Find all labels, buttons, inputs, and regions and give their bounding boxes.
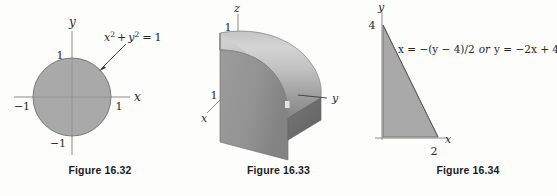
y-axis-label: y (331, 92, 339, 105)
x-tick-negative-label: −1 (14, 100, 30, 113)
eq-y-exp: 2 (134, 30, 139, 39)
line-equation-annotation: x = −(y − 4)/2ory = −2x + 4 (398, 43, 557, 55)
eq-conjunction: or (479, 43, 491, 55)
x-tick-positive-label: 1 (116, 100, 123, 113)
figure-16-34-panel: y x 4 2 x = −(y − 4)/2ory = −2x + 4 Figu… (365, 0, 557, 196)
equation-leader-arrowhead (99, 66, 106, 71)
x-intercept-tick-label: 2 (431, 145, 438, 158)
figure-16-34-caption: Figure 16.34 (365, 164, 557, 176)
equation-leader-line (101, 44, 126, 69)
figure-sheet: y x 1 −1 1 −1 x2+y2=1 Figure 16.32 (0, 0, 557, 196)
figure-16-32-panel: y x 1 −1 1 −1 x2+y2=1 Figure 16.32 (0, 0, 190, 196)
eq-x-exp: 2 (110, 30, 115, 39)
y-tick-positive-label: 1 (57, 49, 64, 62)
figure-16-32-caption: Figure 16.32 (0, 164, 190, 176)
y-axis-label: y (377, 1, 385, 14)
z-tick-label: 1 (225, 21, 232, 34)
svg-text:x2+y2=1: x2+y2=1 (104, 30, 161, 44)
x-tick-label: 1 (211, 89, 218, 102)
figure-16-33-caption: Figure 16.33 (190, 164, 365, 176)
svg-text:x = −(y − 4)/2ory = −2x + 4: x = −(y − 4)/2ory = −2x + 4 (398, 43, 557, 55)
circle-equation-annotation: x2+y2=1 (104, 30, 161, 44)
figure-16-34-canvas: y x 4 2 x = −(y − 4)/2ory = −2x + 4 (365, 0, 557, 165)
eq-rhs: y = −2x + 4 (493, 43, 557, 55)
figure-16-32-canvas: y x 1 −1 1 −1 x2+y2=1 (0, 0, 190, 165)
figure-16-33-canvas: z y x 1 1 (190, 0, 365, 165)
eq-lhs: x = −(y − 4)/2 (398, 43, 475, 55)
eq-equals: = (142, 31, 151, 44)
x-axis-label: x (201, 112, 208, 125)
z-axis-label: z (233, 2, 240, 15)
face-marker-icon (285, 101, 290, 108)
x-axis-label: x (134, 90, 141, 104)
eq-value: 1 (154, 31, 161, 44)
y-intercept-tick-label: 4 (369, 19, 376, 32)
x-axis-label: x (445, 133, 452, 146)
y-tick-negative-label: −1 (50, 137, 66, 150)
y-axis-label: y (68, 15, 76, 29)
eq-plus: + (117, 31, 126, 44)
figure-16-33-panel: z y x 1 1 Figure 16.33 (190, 0, 365, 196)
